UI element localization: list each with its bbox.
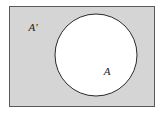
- venn-diagram-figure: A' A: [0, 0, 163, 116]
- set-a-circle: [55, 14, 137, 96]
- set-a-label: A: [103, 65, 111, 77]
- complement-label: A': [27, 21, 38, 33]
- venn-diagram-canvas: A' A: [0, 0, 163, 116]
